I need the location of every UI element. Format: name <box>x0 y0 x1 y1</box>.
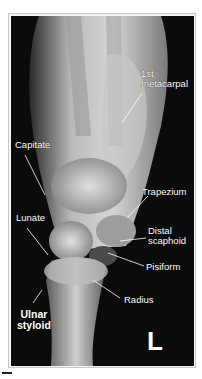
label-capitate: Capitate <box>15 140 50 150</box>
label-trapezium: Trapezium <box>142 187 187 197</box>
label-line: styloid <box>17 320 51 331</box>
label-line: Lunate <box>16 213 45 223</box>
label-line: scaphoid <box>148 236 186 246</box>
label-first-metacarpal: 1st metacarpal <box>141 69 188 89</box>
xray-image: 1st metacarpal Capitate Trapezium Lunate… <box>11 16 194 366</box>
label-line: metacarpal <box>141 79 188 89</box>
label-lunate: Lunate <box>16 213 45 223</box>
label-line: Capitate <box>15 140 50 150</box>
side-marker: L <box>147 328 163 354</box>
label-line: Radius <box>124 295 154 305</box>
label-ulnar-styloid: Ulnar styloid <box>17 309 51 331</box>
label-distal-scaphoid: Distal scaphoid <box>148 226 186 246</box>
label-line: Pisiform <box>146 262 180 272</box>
label-radius: Radius <box>124 295 154 305</box>
label-line: Trapezium <box>142 187 187 197</box>
cropped-caption-fragment <box>2 372 12 377</box>
label-pisiform: Pisiform <box>146 262 180 272</box>
